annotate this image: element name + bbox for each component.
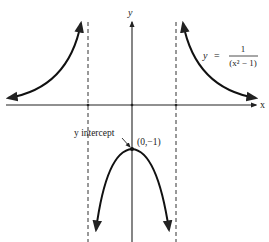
tick-neg-one (87, 104, 90, 107)
x-axis-label: x (260, 99, 265, 110)
equation-equals: = (214, 50, 220, 61)
intercept-leader-arrow (122, 138, 130, 147)
equation-numerator: 1 (241, 44, 246, 54)
y-intercept-label: y intercept (74, 128, 115, 138)
equation-lhs: y (202, 50, 208, 61)
intercept-point-label: (0,−1) (137, 137, 161, 148)
curve-left-branch (8, 23, 81, 98)
equation-denominator: (x² − 1) (229, 58, 256, 68)
tick-pos-one (175, 104, 178, 107)
y-axis-label: y (127, 7, 133, 18)
function-graph: y x y = 1 (x² − 1) y intercept (0,−1) (0, 0, 269, 242)
tick-origin (131, 104, 134, 107)
y-intercept-point (130, 147, 134, 151)
